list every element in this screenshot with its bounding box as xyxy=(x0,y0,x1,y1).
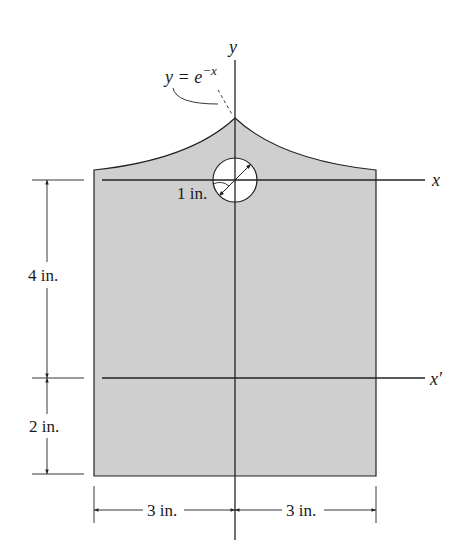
curve-equation-exp: −x xyxy=(202,63,217,78)
dim-left-label: 3 in. xyxy=(147,501,177,520)
curve-extension-dashed xyxy=(218,90,233,116)
curve-equation: y = e−x xyxy=(163,63,217,87)
curve-equation-lhs: y = e xyxy=(163,67,202,87)
curve-leader xyxy=(173,88,218,104)
y-axis-label: y xyxy=(227,37,237,57)
dim-upper-label: 4 in. xyxy=(28,266,58,285)
x-prime-axis-label: x′ xyxy=(429,369,443,389)
diagram-canvas: y x x′ y = e−x 1 in. 4 in. 2 in. 3 in. 3… xyxy=(0,0,469,559)
dim-lower-label: 2 in. xyxy=(29,417,59,436)
x-axis-label: x xyxy=(431,170,440,190)
hole-radius-label: 1 in. xyxy=(177,184,207,203)
dim-right-label: 3 in. xyxy=(286,501,316,520)
